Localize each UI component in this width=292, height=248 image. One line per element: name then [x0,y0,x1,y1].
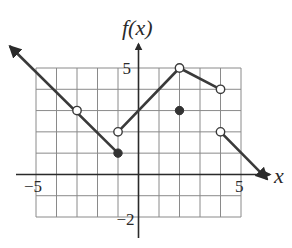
open-point [216,85,224,93]
segment-left-ray [10,47,118,153]
y-axis-label: f(x) [122,15,153,40]
labels: f(x) x −555−2 [24,15,284,229]
y-tick-label: −2 [117,210,135,229]
x-tick-label: 5 [235,177,244,196]
y-tick-label: 5 [123,59,132,78]
function-graph: f(x) x −555−2 [0,0,292,248]
open-point [114,128,122,136]
closed-point [114,149,122,157]
open-point [216,128,224,136]
x-axis-label: x [273,163,284,188]
axes [16,44,270,238]
closed-point [175,106,183,114]
open-point [73,106,81,114]
segment-right-ray [221,132,267,179]
x-tick-label: −5 [24,177,42,196]
open-point [175,64,183,72]
